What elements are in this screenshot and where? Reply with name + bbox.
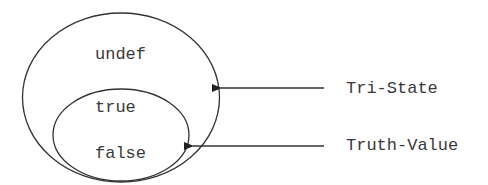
false-label: false [95, 144, 146, 163]
set-diagram: undef true false Tri-State Truth-Value [0, 0, 488, 185]
true-label: true [95, 98, 136, 117]
tri-state-label: Tri-State [346, 79, 438, 98]
undef-label: undef [95, 45, 146, 64]
truth-value-label: Truth-Value [346, 136, 458, 155]
